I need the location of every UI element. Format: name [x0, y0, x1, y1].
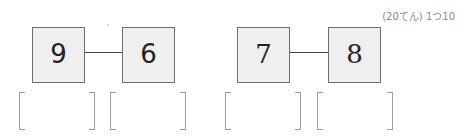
right-bracket-icon — [89, 92, 95, 130]
right-bracket-icon — [387, 92, 393, 130]
number-value: 8 — [346, 39, 363, 69]
number-value: 6 — [140, 39, 157, 69]
number-box-right: 8 — [328, 27, 381, 83]
right-bracket-icon — [180, 92, 186, 130]
number-value: 7 — [255, 39, 272, 69]
number-box-left: 7 — [237, 27, 290, 83]
answer-bracket[interactable] — [225, 92, 301, 130]
connector-line — [85, 52, 122, 53]
connector-line — [290, 52, 328, 53]
right-bracket-icon — [295, 92, 301, 130]
number-box-right: 6 — [122, 27, 175, 83]
number-box-left: 9 — [32, 27, 85, 83]
left-bracket-icon — [317, 92, 323, 130]
answer-bracket[interactable] — [110, 92, 186, 130]
left-bracket-icon — [19, 92, 25, 130]
left-bracket-icon — [225, 92, 231, 130]
points-label: (20てん) 1つ10 — [382, 8, 455, 23]
answer-bracket[interactable] — [19, 92, 95, 130]
answer-bracket[interactable] — [317, 92, 393, 130]
number-value: 9 — [50, 39, 67, 69]
speck — [107, 24, 109, 26]
left-bracket-icon — [110, 92, 116, 130]
